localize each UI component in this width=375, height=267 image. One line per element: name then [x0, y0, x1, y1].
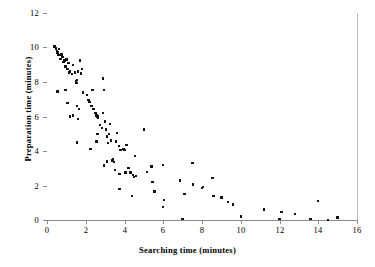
data-point [114, 169, 116, 171]
data-point [309, 218, 311, 220]
data-point [88, 101, 90, 103]
data-point [56, 90, 58, 92]
data-point [92, 108, 94, 110]
data-point [77, 70, 79, 72]
x-tick-0 [47, 220, 48, 224]
x-tick-label-16: 16 [345, 226, 369, 235]
data-point [294, 213, 296, 215]
data-point [76, 141, 78, 143]
data-point [280, 211, 282, 213]
data-point [212, 195, 214, 197]
data-point [102, 112, 104, 114]
data-point [82, 91, 84, 93]
data-point [131, 195, 133, 197]
data-point [124, 171, 126, 173]
data-point [81, 68, 83, 70]
x-tick-label-12: 12 [268, 226, 292, 235]
data-point [78, 108, 80, 110]
data-point [80, 72, 82, 74]
plot-area [47, 13, 357, 220]
data-point [118, 145, 120, 147]
data-point [107, 142, 109, 144]
data-point [106, 160, 108, 162]
x-tick-4 [125, 220, 126, 224]
data-point [108, 133, 110, 135]
data-point [127, 167, 129, 169]
x-tick-label-0: 0 [35, 226, 59, 235]
y-axis-title: Preparation time (minutes) [23, 24, 33, 194]
data-point [179, 179, 181, 181]
data-point [220, 196, 222, 198]
data-point [113, 161, 115, 163]
x-tick-label-4: 4 [113, 226, 137, 235]
data-point [106, 135, 108, 137]
scatter-chart: 024681012 0246810121416 Searching time (… [0, 0, 375, 267]
data-point [67, 62, 69, 64]
data-point [227, 201, 229, 203]
data-point [99, 124, 101, 126]
data-point [162, 164, 164, 166]
x-tick-label-2: 2 [74, 226, 98, 235]
data-point [95, 140, 97, 142]
data-point [181, 218, 183, 220]
x-tick-6 [163, 220, 164, 224]
data-point [74, 71, 76, 73]
data-point [110, 139, 112, 141]
data-point [76, 105, 78, 107]
data-point [86, 94, 88, 96]
data-point [278, 218, 280, 220]
data-point [240, 215, 242, 217]
x-tick-10 [241, 220, 242, 224]
y-tick-label-12: 12 [17, 9, 39, 18]
data-point [61, 56, 63, 58]
data-point [134, 155, 136, 157]
x-tick-16 [357, 220, 358, 224]
data-point [103, 164, 105, 166]
data-point [104, 120, 106, 122]
data-point [66, 102, 68, 104]
data-point [151, 181, 153, 183]
data-point [91, 89, 93, 91]
data-point [72, 64, 74, 66]
data-point [97, 116, 99, 118]
data-point [72, 114, 74, 116]
data-point [211, 177, 213, 179]
data-point [77, 118, 79, 120]
data-point [105, 128, 107, 130]
x-tick-label-8: 8 [190, 226, 214, 235]
data-point [143, 128, 145, 130]
data-point [65, 58, 67, 60]
data-point [64, 89, 66, 91]
data-point [96, 133, 98, 135]
data-point [163, 199, 165, 201]
data-point [90, 105, 92, 107]
data-point [123, 149, 125, 151]
data-point [58, 48, 60, 50]
data-point [115, 140, 117, 142]
data-point [75, 82, 77, 84]
data-point [135, 175, 137, 177]
plot-frame-right [357, 13, 358, 221]
x-tick-label-14: 14 [306, 226, 330, 235]
data-point [191, 162, 193, 164]
y-tick-label-0: 0 [17, 216, 39, 225]
x-tick-12 [280, 220, 281, 224]
data-point [118, 173, 120, 175]
data-point [79, 59, 81, 61]
data-point [101, 127, 103, 129]
data-point [109, 123, 111, 125]
x-tick-2 [86, 220, 87, 224]
data-point [125, 144, 127, 146]
data-point [103, 89, 105, 91]
x-tick-label-6: 6 [151, 226, 175, 235]
data-point [263, 208, 265, 210]
data-point [150, 165, 152, 167]
x-tick-8 [202, 220, 203, 224]
data-point [116, 132, 118, 134]
data-point [89, 148, 91, 150]
data-point [336, 216, 338, 218]
data-point [146, 171, 148, 173]
data-point [317, 200, 319, 202]
x-tick-label-10: 10 [229, 226, 253, 235]
data-point [153, 190, 155, 192]
